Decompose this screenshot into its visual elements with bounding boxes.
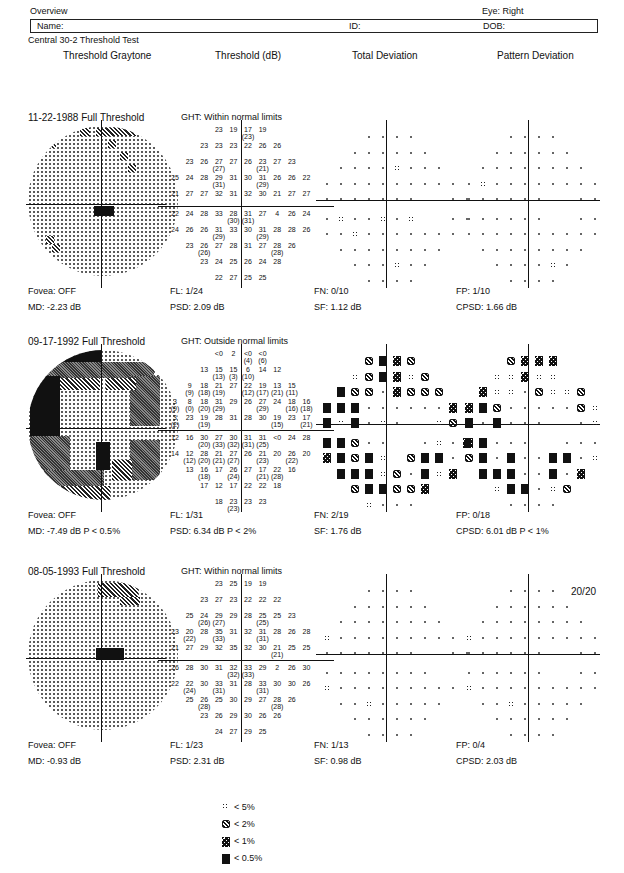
threshold-db: 18 xyxy=(200,382,208,389)
threshold-retest-db: (31) xyxy=(256,687,270,694)
total-deviation-cell xyxy=(376,212,390,226)
threshold-db: 21 xyxy=(273,190,281,197)
name-label: Name: xyxy=(37,21,64,31)
pattern-deviation-cell xyxy=(588,451,602,465)
threshold-db: 27 xyxy=(288,190,296,197)
threshold-db: 19 xyxy=(229,126,237,133)
threshold-value: 23 xyxy=(183,242,197,249)
total-deviation-cell xyxy=(390,354,404,368)
total-deviation-cell xyxy=(390,212,404,226)
fovea-status: Fovea: OFF xyxy=(28,510,76,520)
threshold-value: 33(31) xyxy=(256,680,270,694)
total-deviation-cell xyxy=(446,416,460,430)
pattern-deviation-cell xyxy=(518,212,532,226)
pattern-deviation-cell xyxy=(518,666,532,680)
threshold-db: 29 xyxy=(244,728,252,735)
threshold-db: 16 xyxy=(186,434,194,441)
total-deviation-cell xyxy=(390,416,404,430)
total-deviation-cell xyxy=(432,615,446,629)
threshold-value: 28 xyxy=(197,210,211,217)
threshold-value: 20 xyxy=(299,450,313,457)
threshold-value: 32 xyxy=(212,644,226,651)
total-deviation-cell xyxy=(334,177,348,191)
graytone-defect-region xyxy=(120,597,140,605)
total-deviation-cell xyxy=(362,177,376,191)
col-header-pattern-deviation: Pattern Deviation xyxy=(497,50,574,61)
threshold-value: 17(23) xyxy=(241,126,255,140)
total-deviation-cell xyxy=(390,697,404,711)
threshold-db: 25 xyxy=(229,258,237,265)
threshold-value: 30 xyxy=(241,226,255,233)
threshold-value: 29 xyxy=(226,712,240,719)
threshold-value: 27 xyxy=(183,190,197,197)
threshold-value: 19(19) xyxy=(197,414,211,428)
threshold-db: 23 xyxy=(171,628,179,635)
pattern-deviation-cell xyxy=(504,615,518,629)
threshold-db: 18 xyxy=(215,498,223,505)
total-deviation-cell xyxy=(320,227,334,241)
threshold-value: 27 xyxy=(226,274,240,281)
pattern-deviation-cell xyxy=(518,370,532,384)
graytone-defect-region xyxy=(60,486,110,500)
threshold-db: 12 xyxy=(215,482,223,489)
threshold-db: 25 xyxy=(259,728,267,735)
threshold-db: 28 xyxy=(273,628,281,635)
pattern-deviation-cell xyxy=(476,227,490,241)
total-deviation-cell xyxy=(376,192,390,206)
pattern-deviation-cell xyxy=(546,712,560,726)
false-positives: FP: 0/18 xyxy=(456,510,490,520)
threshold-value: 26 xyxy=(285,210,299,217)
threshold-db: 19 xyxy=(244,580,252,587)
threshold-retest-db: (19) xyxy=(197,421,211,428)
threshold-db: 28 xyxy=(273,242,281,249)
threshold-value: 27 xyxy=(241,466,255,473)
total-deviation-cell xyxy=(348,212,362,226)
pattern-deviation-cell xyxy=(560,401,574,415)
total-deviation-cell xyxy=(404,451,418,465)
total-deviation-cell xyxy=(376,146,390,160)
threshold-retest-db: (18) xyxy=(197,389,211,396)
threshold-db: 24 xyxy=(259,258,267,265)
pattern-deviation-cell xyxy=(504,467,518,481)
threshold-retest-db: (31) xyxy=(241,441,255,448)
threshold-value: 17(21) xyxy=(256,466,270,480)
pattern-deviation-cell xyxy=(490,177,504,191)
total-deviation-cell xyxy=(362,646,376,660)
total-deviation-cell xyxy=(418,467,432,481)
total-deviation-cell xyxy=(362,192,376,206)
total-deviation-cell xyxy=(362,416,376,430)
threshold-db: 27 xyxy=(200,190,208,197)
threshold-horizontal-axis xyxy=(158,660,334,661)
threshold-value: 22 xyxy=(270,596,284,603)
threshold-retest-db: (29) xyxy=(212,405,226,412)
pattern-deviation-cell xyxy=(504,681,518,695)
pattern-std-deviation: PSD: 2.09 dB xyxy=(170,302,225,312)
total-deviation-cell xyxy=(376,177,390,191)
total-deviation-cell xyxy=(348,192,362,206)
pattern-deviation-cell xyxy=(532,666,546,680)
pattern-deviation-cell xyxy=(546,681,560,695)
threshold-db: 27 xyxy=(229,382,237,389)
ght-result: GHT: Outside normal limits xyxy=(181,336,288,346)
pattern-deviation-cell xyxy=(588,666,602,680)
threshold-value: 24(26) xyxy=(197,612,211,626)
pattern-deviation-cell xyxy=(560,615,574,629)
pattern-deviation-cell xyxy=(560,697,574,711)
threshold-value: 17(21) xyxy=(299,414,313,428)
threshold-db: 26 xyxy=(215,712,223,719)
pattern-deviation-cell xyxy=(462,646,476,660)
legend-label: < 0.5% xyxy=(234,853,262,863)
total-deviation-cell xyxy=(390,600,404,614)
pattern-std-deviation: PSD: 2.31 dB xyxy=(170,756,225,766)
total-deviation-cell xyxy=(404,401,418,415)
total-deviation-cell xyxy=(334,631,348,645)
threshold-value: 19(17) xyxy=(256,382,270,396)
threshold-db: 25 xyxy=(259,612,267,619)
threshold-db: 30 xyxy=(302,664,310,671)
total-deviation-cell xyxy=(376,354,390,368)
threshold-value: 13(21) xyxy=(270,382,284,396)
threshold-value: 30 xyxy=(197,664,211,671)
threshold-value: 30 xyxy=(197,680,211,687)
threshold-retest-db: (20) xyxy=(197,441,211,448)
threshold-db: 21 xyxy=(259,450,267,457)
